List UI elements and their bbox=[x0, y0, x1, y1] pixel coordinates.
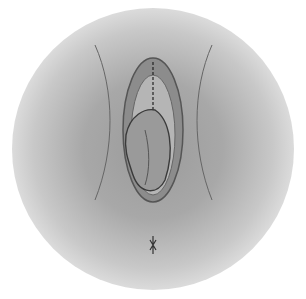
illustration-drawing bbox=[0, 0, 306, 299]
